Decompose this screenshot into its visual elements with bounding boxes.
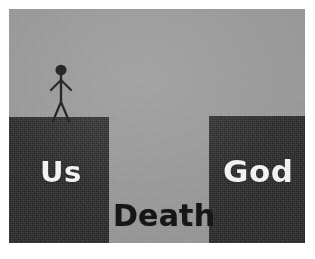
block-god: God (209, 116, 305, 243)
stick-figure-svg (43, 60, 75, 122)
block-us: Us (9, 117, 109, 243)
illustration-canvas: Us God Death (9, 9, 305, 243)
chasm-death-label: Death (113, 201, 215, 231)
stick-figure-arm-left (51, 80, 61, 90)
block-us-label: Us (40, 158, 82, 187)
stick-figure-arm-right (61, 80, 71, 90)
stick-figure-leg-right (61, 102, 69, 121)
block-god-label: God (223, 156, 293, 187)
stick-figure-icon (43, 60, 75, 122)
stick-figure-head (55, 65, 66, 75)
stick-figure-leg-left (53, 102, 61, 121)
illustration-root: Us God Death (0, 0, 315, 259)
